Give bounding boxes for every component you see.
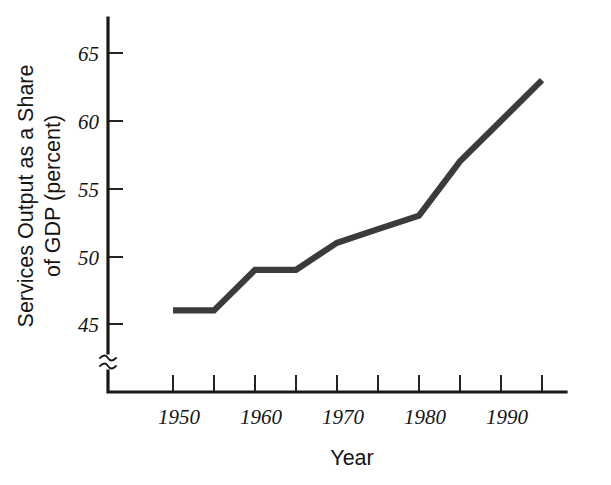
x-axis-title: Year [330, 446, 373, 470]
y-tick-label-60: 60 [78, 110, 100, 134]
chart-container: Services Output as a Share of GDP (perce… [0, 0, 611, 485]
y-axis-ticks [108, 53, 123, 324]
x-axis-ticks [173, 375, 542, 392]
y-tick-label-45: 45 [78, 313, 99, 337]
x-axis-tick-labels: 1950 1960 1970 1980 1990 [158, 405, 529, 429]
y-axis-break-icon [100, 356, 116, 369]
data-series-line [173, 80, 542, 310]
x-tick-label-1970: 1970 [322, 405, 365, 429]
y-tick-label-65: 65 [78, 42, 99, 66]
y-axis-title: Services Output as a Share of GDP (perce… [14, 65, 65, 328]
y-axis-title-line1: Services Output as a Share [14, 65, 38, 328]
x-tick-label-1990: 1990 [486, 405, 529, 429]
x-tick-label-1960: 1960 [240, 405, 283, 429]
line-chart: Services Output as a Share of GDP (perce… [0, 0, 611, 485]
y-axis-title-line2: of GDP (percent) [41, 115, 65, 277]
y-tick-label-55: 55 [78, 178, 99, 202]
x-tick-label-1950: 1950 [158, 405, 201, 429]
axes [108, 18, 566, 392]
y-tick-label-50: 50 [78, 246, 100, 270]
x-tick-label-1980: 1980 [404, 405, 447, 429]
y-axis-tick-labels: 65 60 55 50 45 [78, 42, 100, 337]
